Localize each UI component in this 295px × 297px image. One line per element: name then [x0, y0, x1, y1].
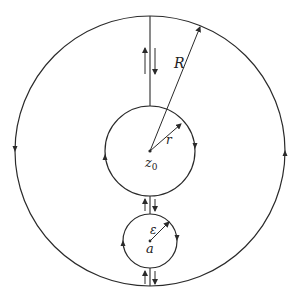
contour-diagram: R r z0 ε a [0, 0, 295, 297]
inner-left-arrow-icon [103, 154, 108, 160]
label-epsilon: ε [150, 223, 156, 237]
small-right-arrow-icon [175, 235, 180, 241]
inner-right-arrow-icon [193, 143, 198, 149]
outer-left-arrow-icon [13, 146, 18, 152]
outer-right-arrow-icon [283, 150, 288, 156]
z0-center-dot [148, 149, 151, 152]
label-R: R [173, 55, 185, 71]
label-z0: z0 [144, 155, 158, 172]
label-a: a [146, 241, 154, 256]
label-r: r [166, 133, 173, 147]
small-left-arrow-icon [121, 240, 126, 246]
radius-R-arrow [150, 27, 200, 151]
